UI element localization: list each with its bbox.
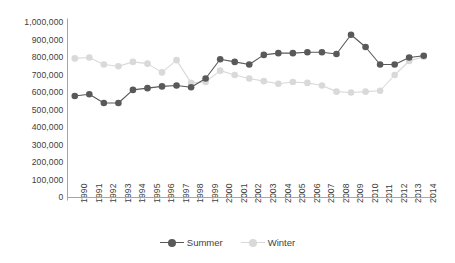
data-point <box>275 50 282 57</box>
data-point <box>115 63 122 70</box>
data-point <box>304 80 311 87</box>
data-point <box>406 54 413 61</box>
data-point <box>304 49 311 56</box>
data-point <box>362 44 369 51</box>
data-point <box>217 56 224 63</box>
data-point <box>260 78 267 85</box>
data-point <box>115 100 122 107</box>
chart-legend: SummerWinter <box>0 238 455 248</box>
data-point <box>246 61 253 68</box>
data-point <box>173 82 180 89</box>
data-point <box>290 50 297 57</box>
data-point <box>231 72 238 79</box>
data-point <box>202 75 209 82</box>
axis-lines <box>68 19 432 198</box>
data-point <box>362 88 369 95</box>
series-summer <box>71 31 427 106</box>
data-point <box>333 88 340 95</box>
data-point <box>86 91 93 98</box>
data-series-layer <box>71 31 427 106</box>
data-point <box>173 57 180 64</box>
legend-label: Summer <box>187 238 223 248</box>
plot-area <box>0 0 455 263</box>
data-point <box>377 61 384 68</box>
data-point <box>144 60 151 67</box>
data-point <box>71 93 78 100</box>
data-point <box>159 69 166 76</box>
legend-label: Winter <box>268 238 295 248</box>
data-point <box>391 61 398 68</box>
data-point <box>275 80 282 87</box>
series-winter <box>71 53 427 95</box>
data-point <box>377 87 384 94</box>
data-point <box>86 54 93 61</box>
data-point <box>188 84 195 91</box>
data-point <box>260 52 267 59</box>
data-point <box>71 55 78 62</box>
legend-item-winter[interactable]: Winter <box>241 238 295 248</box>
data-point <box>391 72 398 79</box>
legend-dot-swatch <box>249 239 257 247</box>
data-point <box>333 51 340 58</box>
series-line-summer <box>75 35 424 103</box>
data-point <box>159 83 166 90</box>
legend-dot-swatch <box>168 239 176 247</box>
data-point <box>348 89 355 96</box>
data-point <box>231 59 238 66</box>
data-point <box>217 67 224 74</box>
legend-marker-summer-icon <box>160 238 184 247</box>
data-point <box>246 75 253 82</box>
data-point <box>348 31 355 38</box>
data-point <box>101 100 108 107</box>
line-chart: 1,000,000900,000800,000700,000600,000500… <box>0 0 455 263</box>
data-point <box>101 61 108 68</box>
legend-marker-winter-icon <box>241 238 265 247</box>
data-point <box>319 82 326 89</box>
data-point <box>420 52 427 59</box>
data-point <box>130 59 137 66</box>
legend-item-summer[interactable]: Summer <box>160 238 223 248</box>
data-point <box>319 49 326 56</box>
data-point <box>130 87 137 94</box>
data-point <box>144 85 151 92</box>
data-point <box>290 79 297 86</box>
